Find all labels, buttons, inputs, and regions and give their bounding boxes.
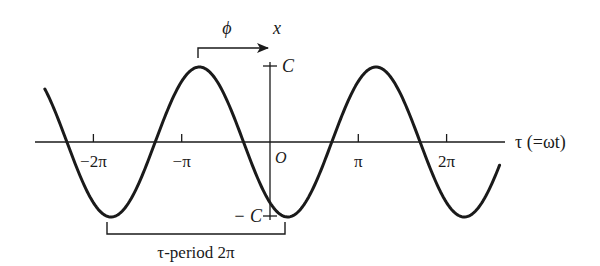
tau-axis-label: τ (=ωt) <box>515 132 566 153</box>
amplitude-pos-label: C <box>282 56 295 76</box>
amplitude-neg-label: − C <box>233 206 263 226</box>
tau-tick-label: π <box>354 152 363 171</box>
phase-shift-arrow <box>198 48 268 58</box>
origin-label: O <box>275 149 287 166</box>
oscillation-diagram: −2π−ππ2π ϕ x C − C O τ (=ωt) τ-period 2π <box>0 0 600 266</box>
tau-tick-label: −2π <box>80 152 107 171</box>
tau-tick-label: 2π <box>438 152 456 171</box>
tau-ticks: −2π−ππ2π <box>80 134 455 171</box>
phase-label: ϕ <box>222 18 231 38</box>
x-axis-label: x <box>272 18 281 38</box>
period-label: τ-period 2π <box>157 243 235 262</box>
tau-tick-label: −π <box>173 152 192 171</box>
